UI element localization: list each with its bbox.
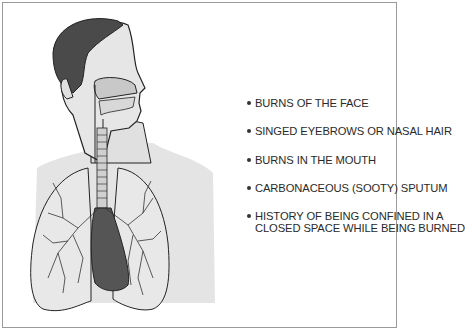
bullet-icon: [247, 186, 251, 190]
list-item-text: BURNS OF THE FACE: [255, 97, 369, 109]
list-item: SINGED EYEBROWS OR NASAL HAIR: [247, 125, 452, 137]
respiratory-anatomy-illustration: [3, 3, 243, 333]
trachea: [97, 128, 107, 208]
list-item: CARBONACEOUS (SOOTY) SPUTUM: [247, 182, 447, 194]
list-item-text: SINGED EYEBROWS OR NASAL HAIR: [255, 125, 452, 137]
list-item: BURNS OF THE FACE: [247, 97, 369, 109]
bullet-icon: [247, 158, 251, 162]
bullet-icon: [247, 129, 251, 133]
list-item-text: CARBONACEOUS (SOOTY) SPUTUM: [255, 182, 447, 194]
bullet-icon: [247, 101, 251, 105]
figure-frame: BURNS OF THE FACE SINGED EYEBROWS OR NAS…: [2, 2, 397, 328]
list-item-text-line2: CLOSED SPACE WHILE BEING BURNED: [255, 222, 465, 234]
bullet-icon: [247, 214, 251, 218]
list-item-text: HISTORY OF BEING CONFINED IN A: [255, 210, 443, 222]
list-item-text: BURNS IN THE MOUTH: [255, 154, 376, 166]
list-item: HISTORY OF BEING CONFINED IN A CLOSED SP…: [247, 210, 465, 234]
list-item: BURNS IN THE MOUTH: [247, 154, 376, 166]
